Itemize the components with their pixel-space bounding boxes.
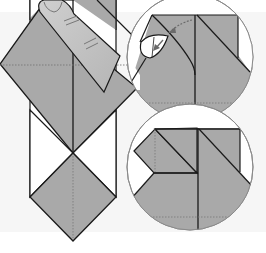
origami-diagram: [0, 0, 266, 253]
